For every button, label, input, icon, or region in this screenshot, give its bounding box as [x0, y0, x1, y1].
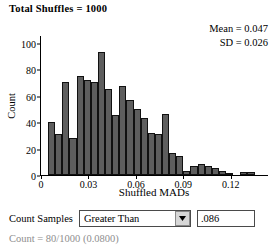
plot-axes: 020406080100 00.030.060.090.12 — [40, 36, 268, 176]
y-axis-label-wrap: Count — [9, 28, 23, 188]
histogram-bar — [69, 138, 76, 175]
histogram-bars — [41, 36, 268, 175]
count-samples-controls: Count Samples Greater Than — [9, 210, 255, 227]
histogram-bar — [134, 109, 141, 175]
histogram-bar — [62, 82, 69, 175]
histogram-bar — [141, 118, 148, 175]
chevron-down-icon[interactable] — [175, 211, 190, 226]
histogram-chart: Count 020406080100 00.030.060.090.12 Shu… — [0, 28, 276, 188]
histogram-bar — [119, 86, 126, 175]
y-axis-tick-mark — [37, 96, 40, 97]
threshold-input[interactable] — [197, 210, 255, 227]
x-axis-tick-label: 0 — [39, 179, 44, 190]
histogram-bar — [247, 172, 254, 175]
histogram-bar — [105, 89, 112, 175]
count-result-text: Count = 80/1000 (0.0800) — [9, 233, 119, 244]
histogram-bar — [148, 133, 155, 175]
y-axis-label: Count — [6, 93, 17, 119]
y-axis-tick-mark — [37, 149, 40, 150]
histogram-bar — [169, 153, 176, 176]
comparison-dropdown[interactable]: Greater Than — [79, 210, 191, 227]
x-axis-label: Shuffled MADs — [119, 186, 189, 198]
histogram-bar — [91, 82, 98, 175]
histogram-bar — [205, 166, 212, 175]
histogram-bar — [226, 173, 233, 175]
sampling-distribution-panel: Total Shuffles = 1000 Mean = 0.047 SD = … — [0, 0, 276, 250]
y-axis-tick-mark — [37, 70, 40, 71]
histogram-bar — [183, 171, 190, 175]
histogram-bar — [126, 100, 133, 175]
x-axis-tick-label: 0.03 — [80, 179, 98, 190]
histogram-bar — [190, 166, 197, 175]
histogram-bar — [48, 122, 55, 175]
histogram-bar — [212, 168, 219, 175]
y-axis-tick-mark — [37, 123, 40, 124]
count-samples-label: Count Samples — [9, 213, 73, 224]
histogram-bar — [155, 134, 162, 175]
x-axis-tick-label: 0.12 — [222, 179, 240, 190]
page-title: Total Shuffles = 1000 — [9, 3, 107, 14]
histogram-bar — [55, 134, 62, 175]
histogram-bar — [77, 76, 84, 175]
histogram-bar — [176, 156, 183, 175]
histogram-bar — [98, 52, 105, 175]
histogram-bar — [162, 114, 169, 175]
y-axis-tick-mark — [37, 43, 40, 44]
histogram-bar — [112, 115, 119, 175]
histogram-bar — [198, 164, 205, 175]
y-axis-tick-mark — [37, 176, 40, 177]
histogram-bar — [240, 172, 247, 175]
comparison-dropdown-value: Greater Than — [84, 213, 175, 224]
histogram-bar — [219, 171, 226, 175]
histogram-bar — [84, 80, 91, 175]
x-axis-line — [40, 175, 268, 176]
